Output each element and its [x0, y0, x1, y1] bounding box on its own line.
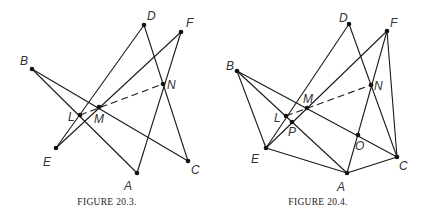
point-l [284, 114, 289, 119]
point-e [264, 146, 269, 151]
point-label-m: M [303, 92, 313, 106]
point-b [235, 69, 240, 74]
point-label-n: N [167, 78, 176, 92]
point-label-o: O [355, 139, 364, 153]
point-c [186, 159, 191, 164]
segment-ea [266, 148, 347, 173]
point-n [161, 82, 166, 87]
point-d [142, 23, 147, 28]
figure-20-3-segments [32, 25, 188, 173]
point-label-d: D [147, 9, 156, 23]
point-label-b: B [20, 54, 28, 68]
segment-ef [56, 32, 181, 148]
point-label-a: A [123, 179, 132, 193]
segment-ed [56, 25, 144, 148]
point-label-e: E [43, 155, 52, 169]
point-label-c: C [191, 163, 200, 177]
figure-20-4-caption: FIGURE 20.4. [288, 197, 347, 207]
point-label-m: M [94, 112, 104, 126]
dashed-line-ln [286, 85, 371, 116]
point-p [290, 120, 295, 125]
point-label-f: F [186, 16, 194, 30]
figure-20-4-segments [237, 24, 397, 173]
point-l [78, 113, 83, 118]
segment-ed [266, 24, 349, 148]
figure-20-3-caption: FIGURE 20.3. [77, 197, 136, 207]
segment-fa [347, 31, 387, 173]
point-a [135, 171, 140, 176]
point-m [305, 106, 310, 111]
point-label-l: L [274, 111, 281, 125]
point-label-c: C [399, 159, 408, 173]
point-label-b: B [226, 59, 234, 73]
point-label-p: P [288, 125, 296, 139]
segment-ac [347, 157, 397, 173]
figure-20-4-labels: DFBNMLPOECA [226, 11, 408, 194]
figure-20-3: DFBNMLECA FIGURE 20.3. [20, 9, 200, 207]
point-o [356, 133, 361, 138]
point-label-n: N [374, 79, 383, 93]
figure-20-3-dashed-line [80, 84, 163, 115]
figure-20-4-dashed-line [286, 85, 371, 116]
figure-20-4: DFBNMLPOECA FIGURE 20.4. [226, 11, 408, 207]
segment-be [237, 71, 266, 148]
point-label-d: D [339, 11, 348, 25]
point-n [369, 83, 374, 88]
point-label-a: A [336, 180, 345, 194]
point-m [97, 105, 102, 110]
point-label-l: L [68, 110, 75, 124]
point-b [30, 67, 35, 72]
segment-ef [266, 31, 387, 148]
point-e [54, 146, 59, 151]
geometry-figures-canvas: DFBNMLECA FIGURE 20.3. DFBNMLPOECA FIGUR… [0, 0, 428, 212]
dashed-line-ln [80, 84, 163, 115]
point-f [179, 30, 184, 35]
figure-20-3-labels: DFBNMLECA [20, 9, 200, 193]
point-label-f: F [390, 16, 398, 30]
point-label-e: E [251, 152, 260, 166]
segment-fc [387, 31, 397, 157]
point-a [345, 171, 350, 176]
point-f [385, 29, 390, 34]
